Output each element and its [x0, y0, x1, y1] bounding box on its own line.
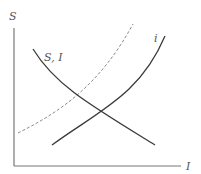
x-axis-label: I — [185, 160, 191, 173]
y-axis-label: S — [9, 10, 17, 23]
si-curve-label: S, I — [44, 51, 63, 64]
dashed-curve — [18, 24, 133, 133]
i-curve — [52, 36, 165, 145]
i-curve-label: i — [154, 32, 158, 45]
si-diagram: S I S, I i — [0, 0, 201, 174]
